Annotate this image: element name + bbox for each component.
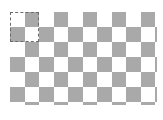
checker-cell: [112, 102, 127, 105]
checker-cell: [83, 42, 98, 57]
checker-cell: [97, 87, 112, 102]
checker-cell: [97, 57, 112, 72]
checker-cell: [39, 27, 54, 42]
checker-cell: [68, 102, 83, 105]
checker-cell: [155, 12, 157, 27]
checker-cell: [83, 87, 98, 102]
checker-cell: [141, 72, 156, 87]
checker-cell: [10, 42, 25, 57]
checker-cell: [68, 27, 83, 42]
checker-cell: [39, 72, 54, 87]
checker-cell: [54, 27, 69, 42]
checker-cell: [97, 42, 112, 57]
checker-cell: [155, 42, 157, 57]
checker-cell: [112, 12, 127, 27]
checker-cell: [83, 102, 98, 105]
checker-cell: [39, 87, 54, 102]
checker-cell: [68, 87, 83, 102]
checker-cell: [68, 72, 83, 87]
checker-cell: [54, 12, 69, 27]
checker-cell: [112, 87, 127, 102]
checker-cell: [68, 57, 83, 72]
checker-cell: [126, 42, 141, 57]
checker-cell: [126, 12, 141, 27]
checker-cell: [25, 72, 40, 87]
checker-cell: [83, 57, 98, 72]
checker-cell: [141, 102, 156, 105]
checker-cell: [68, 42, 83, 57]
checker-cell: [155, 27, 157, 42]
checker-cell: [126, 57, 141, 72]
checker-cell: [155, 87, 157, 102]
checker-cell: [54, 102, 69, 105]
selection-marquee[interactable]: [10, 12, 39, 42]
checker-cell: [83, 27, 98, 42]
checker-cell: [25, 102, 40, 105]
checker-cell: [83, 72, 98, 87]
checker-cell: [97, 72, 112, 87]
checker-cell: [126, 72, 141, 87]
checker-cell: [112, 57, 127, 72]
checker-cell: [97, 12, 112, 27]
checker-cell: [54, 87, 69, 102]
checker-cell: [54, 57, 69, 72]
checker-cell: [39, 12, 54, 27]
checker-cell: [126, 102, 141, 105]
checker-cell: [141, 12, 156, 27]
checker-cell: [141, 42, 156, 57]
checker-cell: [25, 42, 40, 57]
checker-cell: [141, 57, 156, 72]
checker-cell: [112, 72, 127, 87]
checker-cell: [97, 102, 112, 105]
checker-cell: [10, 57, 25, 72]
checker-cell: [10, 87, 25, 102]
checker-cell: [126, 87, 141, 102]
checker-cell: [54, 42, 69, 57]
checker-cell: [10, 72, 25, 87]
checker-cell: [141, 27, 156, 42]
checker-cell: [39, 102, 54, 105]
checker-cell: [83, 12, 98, 27]
checker-cell: [155, 72, 157, 87]
checker-cell: [141, 87, 156, 102]
checker-cell: [54, 72, 69, 87]
checker-cell: [112, 27, 127, 42]
checker-cell: [25, 57, 40, 72]
checker-cell: [25, 87, 40, 102]
checker-cell: [97, 27, 112, 42]
checker-cell: [155, 57, 157, 72]
checker-cell: [126, 27, 141, 42]
checker-cell: [10, 102, 25, 105]
checker-cell: [39, 57, 54, 72]
checker-cell: [68, 12, 83, 27]
checker-cell: [155, 102, 157, 105]
checker-cell: [39, 42, 54, 57]
checker-cell: [112, 42, 127, 57]
